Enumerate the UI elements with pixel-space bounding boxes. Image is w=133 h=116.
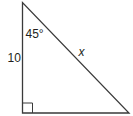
hypotenuse-label: x bbox=[78, 45, 86, 59]
right-angle-marker bbox=[23, 103, 33, 113]
side-length-label: 10 bbox=[8, 51, 22, 65]
triangle-diagram: 45° 10 x bbox=[0, 0, 133, 116]
angle-label: 45° bbox=[26, 27, 44, 41]
right-triangle bbox=[23, 3, 130, 114]
